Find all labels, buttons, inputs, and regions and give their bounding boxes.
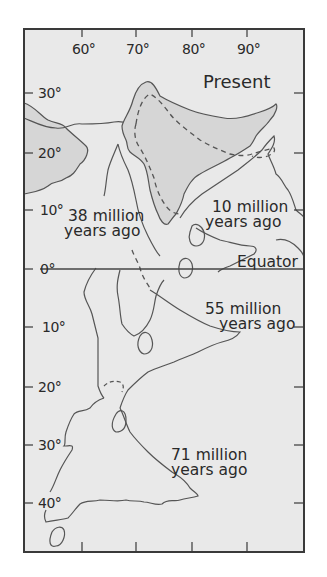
label-71-million-line2: years ago [171,463,247,478]
label-55-million-years: 55 million years ago [205,302,295,332]
label-equator: Equator [237,255,298,271]
latitude-label-30n: 30° [38,86,61,100]
latitude-label-20s: 20° [38,380,61,394]
longitude-label-80: 80° [182,42,205,56]
longitude-label-60: 60° [72,42,95,56]
label-10-million-years: 10 million years ago [205,200,288,230]
label-10-million-line2: years ago [205,215,288,230]
latitude-label-10s: 10° [42,320,65,334]
latitude-label-0: 0° [40,262,55,276]
latitude-label-30s: 30° [38,438,61,452]
latitude-label-10n: 10° [40,203,63,217]
label-present: Present [203,73,271,91]
latitude-label-40s: 40° [38,496,61,510]
label-38-million-years: 38 million years ago [64,209,144,239]
longitude-label-70: 70° [126,42,149,56]
label-55-million-line2: years ago [205,317,295,332]
label-38-million-line2: years ago [64,224,144,239]
label-71-million-years: 71 million years ago [171,448,247,478]
longitude-label-90: 90° [237,42,260,56]
latitude-label-20n: 20° [38,146,61,160]
